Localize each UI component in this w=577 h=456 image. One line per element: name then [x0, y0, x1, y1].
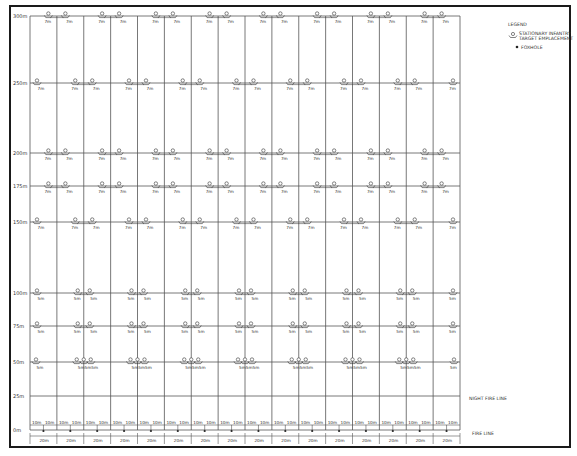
- target-emplacement: 5m: [355, 322, 366, 334]
- foxhole-icon: [69, 430, 71, 432]
- target-symbol: [64, 12, 67, 15]
- target-emplacement: 7m: [44, 182, 52, 194]
- foxhole-icon: [311, 430, 313, 432]
- target-emplacement: 7m: [384, 149, 395, 161]
- target-symbol: [130, 322, 133, 325]
- target-spacing-label: 7m: [173, 19, 180, 24]
- target-spacing-label: 7m: [44, 189, 51, 194]
- target-emplacement: 7m: [44, 149, 52, 161]
- target-symbol: [411, 289, 414, 292]
- half-lane-label: 10m: [45, 420, 54, 425]
- half-lane-label: 10m: [152, 420, 161, 425]
- target-spacing-label: 7m: [38, 225, 45, 230]
- target-spacing-label: 5m: [449, 296, 456, 301]
- target-spacing-label: 7m: [449, 225, 456, 230]
- target-spacing-label: 7m: [200, 225, 207, 230]
- target-spacing-label: 7m: [259, 189, 266, 194]
- target-symbol: [315, 182, 318, 185]
- target-spacing-label: 7m: [173, 189, 180, 194]
- target-emplacement: 7m: [394, 79, 402, 91]
- target-symbol: [306, 79, 309, 82]
- half-lane-label: 10m: [435, 420, 444, 425]
- target-symbol: [117, 12, 120, 15]
- target-symbol: [451, 79, 454, 82]
- target-symbol: [100, 12, 103, 15]
- target-emplacement: 7m: [340, 79, 348, 91]
- target-symbol: [290, 358, 293, 361]
- target-emplacement: 7m: [303, 218, 314, 230]
- target-emplacement: 5m: [396, 289, 404, 301]
- target-emplacement: 7m: [233, 218, 241, 230]
- target-spacing-label: 7m: [367, 189, 374, 194]
- target-emplacement: 5m: [33, 322, 44, 334]
- target-symbol: [386, 182, 389, 185]
- target-symbol: [89, 358, 92, 361]
- target-spacing-label: 7m: [98, 19, 105, 24]
- target-emplacement: 5m: [449, 322, 457, 334]
- half-lane-label: 10m: [355, 420, 364, 425]
- target-symbol: [88, 322, 91, 325]
- target-spacing-label: 7m: [71, 225, 78, 230]
- target-emplacement: 7m: [115, 12, 126, 24]
- target-emplacement: 7m: [394, 218, 402, 230]
- triple-spacing-label: 5m5m5m: [132, 365, 152, 370]
- target-emplacement: 7m: [61, 12, 72, 24]
- target-emplacement: 5m: [86, 289, 97, 301]
- target-emplacement: 7m: [88, 218, 99, 230]
- lane-width-label: 20m: [281, 438, 290, 443]
- foxhole-icon: [96, 430, 98, 432]
- target-symbol: [181, 218, 184, 221]
- triple-spacing-label: 5m5m5m: [347, 365, 367, 370]
- half-lane-label: 10m: [140, 420, 149, 425]
- target-symbol: [345, 289, 348, 292]
- target-spacing-label: 5m: [235, 329, 242, 334]
- target-emplacement: 5m: [289, 289, 297, 301]
- target-symbol: [386, 12, 389, 15]
- foxhole-icon: [419, 430, 421, 432]
- lane-width-label: 20m: [174, 438, 183, 443]
- target-spacing-label: 7m: [340, 225, 347, 230]
- target-spacing-label: 5m: [305, 329, 312, 334]
- half-lane-label: 10m: [301, 420, 310, 425]
- target-spacing-label: 7m: [442, 19, 449, 24]
- foxhole-icon: [177, 430, 179, 432]
- target-spacing-label: 7m: [394, 225, 401, 230]
- foxhole-icon: [284, 430, 286, 432]
- target-symbol: [398, 358, 401, 361]
- target-symbol: [303, 322, 306, 325]
- target-emplacement: 7m: [411, 79, 422, 91]
- target-symbol: [399, 322, 402, 325]
- target-symbol: [183, 358, 186, 361]
- half-lane-label: 10m: [381, 420, 390, 425]
- target-symbol: [405, 358, 408, 361]
- target-symbol: [279, 12, 282, 15]
- target-symbol: [396, 218, 399, 221]
- target-emplacement: 7m: [206, 182, 214, 194]
- target-symbol: [451, 218, 454, 221]
- target-emplacement: 7m: [384, 182, 395, 194]
- half-lane-label: 10m: [179, 420, 188, 425]
- target-emplacement: 7m: [71, 79, 79, 91]
- target-spacing-label: 7m: [66, 189, 73, 194]
- lane-width-label: 20m: [228, 438, 237, 443]
- target-emplacement: 5m: [193, 322, 204, 334]
- range-label-0m: 0m: [13, 427, 21, 433]
- target-symbol: [236, 358, 239, 361]
- target-spacing-label: 7m: [200, 86, 207, 91]
- target-emplacement: 5m: [235, 322, 243, 334]
- target-emplacement: 7m: [115, 182, 126, 194]
- target-emplacement: 7m: [259, 149, 267, 161]
- target-symbol: [237, 289, 240, 292]
- target-symbol: [279, 149, 282, 152]
- target-symbol: [88, 289, 91, 292]
- lane-width-label: 20m: [362, 438, 371, 443]
- target-spacing-label: 7m: [388, 156, 395, 161]
- half-lane-label: 10m: [314, 420, 323, 425]
- target-emplacement: 7m: [169, 182, 180, 194]
- half-lane-label: 10m: [287, 420, 296, 425]
- target-emplacement: [87, 358, 95, 364]
- half-lane-label: 10m: [206, 420, 215, 425]
- target-emplacement: 7m: [250, 218, 261, 230]
- target-spacing-label: 7m: [421, 189, 428, 194]
- target-emplacement: 5m: [32, 358, 43, 370]
